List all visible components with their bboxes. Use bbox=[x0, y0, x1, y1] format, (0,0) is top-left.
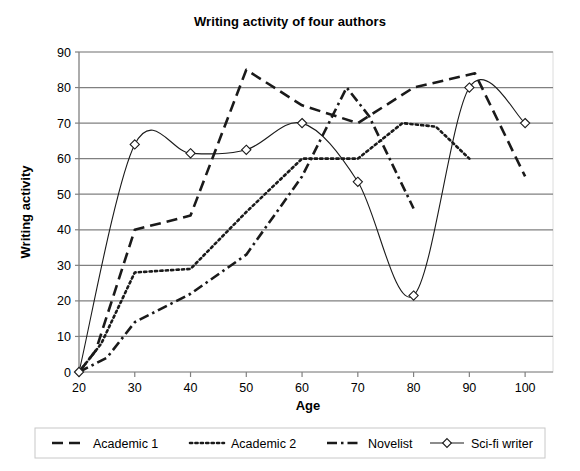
gridlines bbox=[79, 52, 553, 372]
chart-legend: Academic 1Academic 2NovelistSci-fi write… bbox=[35, 428, 545, 458]
x-axis-tick-labels: 2030405060708090100 bbox=[72, 381, 536, 395]
y-tick-label-20: 20 bbox=[57, 294, 71, 308]
x-tick-label-90: 90 bbox=[462, 381, 476, 395]
y-tick-label-50: 50 bbox=[57, 188, 71, 202]
y-tick-label-60: 60 bbox=[57, 152, 71, 166]
y-tick-label-10: 10 bbox=[57, 330, 71, 344]
y-axis-title: Writing activity bbox=[18, 165, 33, 259]
chart-title: Writing activity of four authors bbox=[0, 14, 580, 29]
y-tick-label-90: 90 bbox=[57, 46, 71, 60]
legend-label: Academic 2 bbox=[231, 437, 296, 451]
legend-label: Sci-fi writer bbox=[471, 437, 533, 451]
line-chart-plot: 0102030405060708090 2030405060708090100 … bbox=[0, 0, 580, 471]
x-tick-label-20: 20 bbox=[72, 381, 86, 395]
y-tick-label-80: 80 bbox=[57, 81, 71, 95]
x-tick-label-40: 40 bbox=[184, 381, 198, 395]
y-axis-tick-labels: 0102030405060708090 bbox=[57, 46, 71, 380]
x-axis-title: Age bbox=[296, 398, 321, 413]
legend-label: Academic 1 bbox=[93, 437, 158, 451]
y-tick-label-70: 70 bbox=[57, 117, 71, 131]
chart-container: Writing activity of four authors 0102030… bbox=[0, 0, 580, 471]
x-tick-label-30: 30 bbox=[128, 381, 142, 395]
x-tick-label-80: 80 bbox=[407, 381, 421, 395]
y-tick-label-40: 40 bbox=[57, 223, 71, 237]
y-tick-label-0: 0 bbox=[64, 366, 71, 380]
x-tick-label-60: 60 bbox=[295, 381, 309, 395]
x-tick-label-50: 50 bbox=[239, 381, 253, 395]
legend-label: Novelist bbox=[368, 437, 413, 451]
x-tick-label-70: 70 bbox=[351, 381, 365, 395]
x-tick-label-100: 100 bbox=[515, 381, 536, 395]
y-tick-label-30: 30 bbox=[57, 259, 71, 273]
